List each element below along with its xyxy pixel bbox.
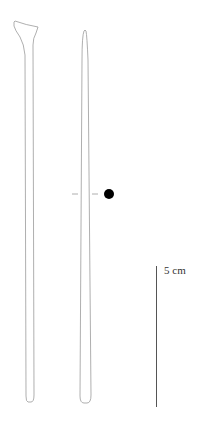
artifact-drawing [0,0,216,423]
artifact-left-outline [14,21,38,402]
scale-bar-label: 5 cm [164,264,186,276]
section-dot-icon [104,189,114,199]
artifact-right-outline [80,30,91,403]
